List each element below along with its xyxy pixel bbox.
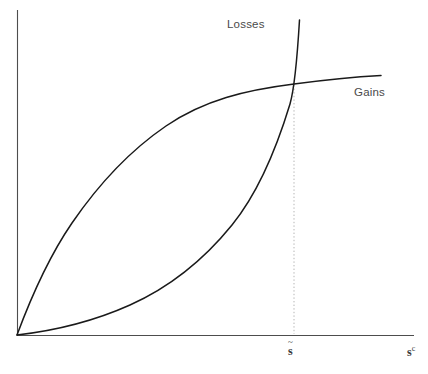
losses-curve — [17, 20, 300, 335]
s-c-superscript: c — [412, 344, 416, 353]
s-tilde-base: s — [288, 345, 293, 358]
x-axis-tick-label-s-c: sc — [407, 344, 415, 360]
losses-curve-label: Losses — [227, 18, 265, 30]
x-axis-tick-label-s-tilde: ~ s — [288, 340, 293, 358]
chart-figure: Losses Gains ~ s sc — [0, 0, 428, 374]
chart-plot-area — [0, 0, 428, 374]
gains-curve — [17, 76, 381, 336]
gains-curve-label: Gains — [354, 86, 385, 98]
